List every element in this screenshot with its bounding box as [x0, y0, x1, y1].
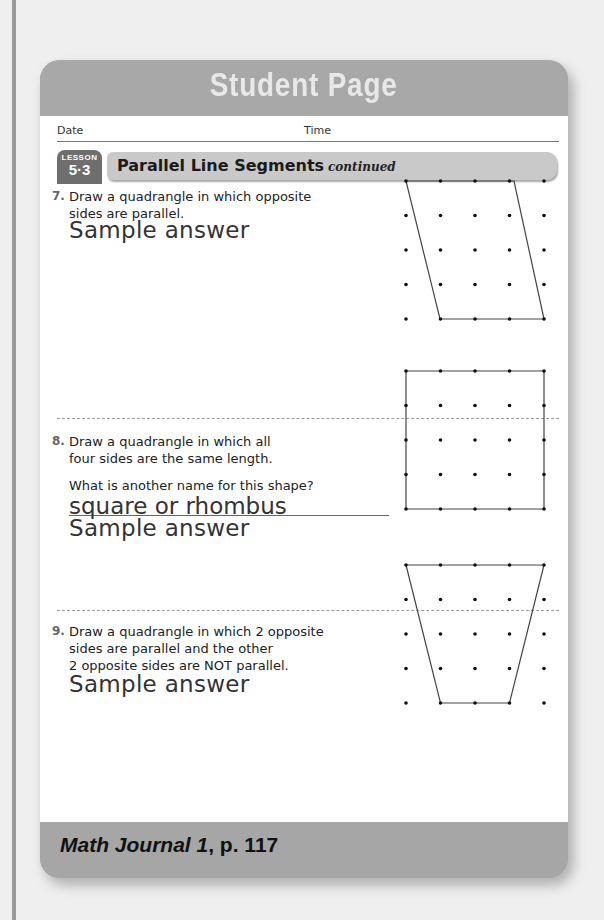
card-footer: Math Journal 1, p. 117	[40, 822, 568, 878]
sample-answer-label: Sample answer	[69, 520, 389, 537]
answer-text: square or rhombus	[69, 498, 389, 516]
parallelogram-drawing	[400, 176, 550, 326]
problem-number: 8.	[52, 433, 65, 450]
sample-answer-label: Sample answer	[69, 217, 250, 243]
problem-line: Draw a quadrangle in which all	[69, 433, 389, 450]
problem-line: sides are parallel. Sample answer	[69, 205, 389, 242]
worksheet-body: Date Time LESSON 5·3 Parallel Line Segme…	[40, 116, 568, 822]
problem-line: Draw a quadrangle in which opposite	[69, 188, 389, 205]
dot-grid-parallelogram	[400, 176, 550, 326]
problem-line: Draw a quadrangle in which 2 opposite	[69, 623, 389, 640]
student-page-card: Student Page Date Time LESSON 5·3 Parall…	[40, 60, 568, 878]
trapezoid-drawing	[400, 560, 550, 710]
lesson-title: Parallel Line Segmentscontinued	[117, 156, 396, 175]
page-title: Student Page	[210, 65, 398, 104]
dot-grid-trapezoid	[400, 560, 550, 710]
lesson-continued: continued	[328, 160, 396, 174]
lesson-badge: LESSON 5·3	[57, 150, 102, 184]
square-drawing	[400, 366, 550, 516]
problem-text: Draw a quadrangle in which all four side…	[69, 433, 389, 537]
problem-text: Draw a quadrangle in which opposite side…	[69, 188, 389, 242]
problem-line: sides are parallel and the other	[69, 640, 389, 657]
footer-page: , p. 117	[208, 833, 278, 856]
page-margin-rule	[12, 0, 16, 920]
problem-line: four sides are the same length.	[69, 450, 389, 467]
footer-reference: Math Journal 1, p. 117	[60, 833, 278, 857]
problem-number: 9.	[52, 623, 65, 640]
card-header: Student Page	[40, 60, 568, 116]
time-label: Time	[304, 124, 331, 137]
date-time-row: Date Time	[57, 121, 559, 142]
dot-grid-square	[400, 366, 550, 516]
lesson-title-text: Parallel Line Segments	[117, 156, 324, 175]
footer-book: Math Journal 1	[60, 833, 208, 856]
answer-row: square or rhombus	[69, 498, 389, 516]
grid-dots	[404, 563, 546, 705]
problem-number: 7.	[52, 188, 65, 205]
date-label: Date	[57, 124, 83, 137]
grid-dots	[404, 179, 546, 321]
sample-answer-label: Sample answer	[69, 676, 389, 693]
lesson-number: 5·3	[57, 162, 102, 177]
grid-dots	[404, 369, 546, 511]
problem-question: What is another name for this shape?	[69, 477, 389, 494]
problem-text: Draw a quadrangle in which 2 opposite si…	[69, 623, 389, 693]
